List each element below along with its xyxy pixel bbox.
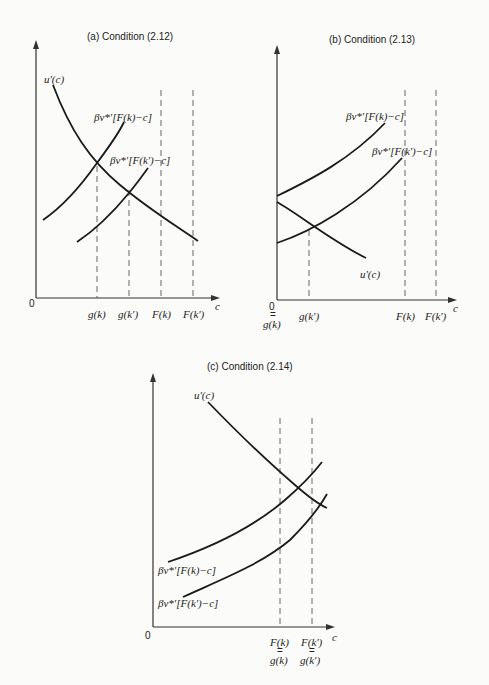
tick-Fk: F(k) [151, 308, 171, 321]
y-axis-arrow-icon [150, 373, 156, 382]
panel-c: (c) Condition (2.14) 0 c F(k) = g(k) F(k… [145, 361, 337, 667]
tick-Fkp: F(k') [424, 310, 447, 323]
curve-u-prime [277, 202, 366, 258]
origin-label: 0 [145, 630, 151, 641]
x-axis-label: c [453, 302, 458, 314]
label-bv-Fk: βv*'[F(k)−c] [93, 111, 152, 124]
tick-gkp: g(k') [300, 654, 320, 667]
panel-b-title: (b) Condition (2.13) [329, 34, 415, 45]
curve-bv-Fk [43, 122, 124, 220]
panel-a-title: (a) Condition (2.12) [87, 31, 173, 42]
label-bv-Fkp: βv*'[F(k')−c] [371, 145, 432, 158]
y-axis-arrow-icon [33, 40, 39, 49]
label-u-prime: u'(c) [360, 268, 380, 281]
tick-gk: g(k) [88, 308, 106, 321]
tick-gk: g(k) [270, 654, 288, 667]
curve-bv-Fkp [183, 494, 327, 597]
y-axis-arrow-icon [274, 45, 280, 54]
origin-label: 0 [29, 298, 35, 309]
tick-gkp: g(k') [118, 308, 138, 321]
label-u-prime: u'(c) [194, 389, 214, 402]
label-u-prime: u'(c) [44, 73, 64, 86]
curve-bv-Fk [277, 123, 385, 196]
x-axis-label: c [215, 300, 220, 312]
tick-Fkp: F(k') [182, 308, 205, 321]
tick-gkp: g(k') [299, 310, 319, 323]
panel-c-title: (c) Condition (2.14) [207, 361, 293, 372]
x-axis-arrow-icon [326, 624, 335, 630]
curve-u-prime [208, 402, 327, 508]
label-bv-Fk: βv*'[F(k)−c] [157, 564, 216, 577]
panel-a: (a) Condition (2.12) 0 c g(k) g(k') F(k)… [29, 31, 220, 321]
panel-b: (b) Condition (2.13) 0 = g(k) c g(k') F(… [263, 34, 458, 331]
tick-Fk: F(k) [395, 310, 415, 323]
curve-bv-Fk [168, 462, 322, 562]
origin-gk: g(k) [263, 318, 281, 331]
figure: (a) Condition (2.12) 0 c g(k) g(k') F(k)… [0, 0, 489, 685]
label-bv-Fk: βv*'[F(k)−c] [345, 110, 404, 123]
curve-bv-Fkp [277, 158, 402, 243]
label-bv-Fkp: βv*'[F(k')−c] [157, 597, 218, 610]
figure-svg: (a) Condition (2.12) 0 c g(k) g(k') F(k)… [0, 0, 489, 685]
x-axis-label: c [332, 631, 337, 643]
label-bv-Fkp: βv*'[F(k')−c] [109, 154, 170, 167]
